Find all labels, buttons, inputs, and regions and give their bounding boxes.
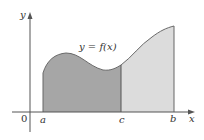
point-a-label: a: [40, 114, 46, 125]
point-b-label: b: [170, 113, 176, 124]
left-region: [43, 53, 121, 112]
right-region: [121, 26, 174, 112]
origin-label: 0: [21, 113, 27, 124]
y-axis-arrow-icon: [28, 12, 33, 19]
area-diagram: y x 0 a c b y = f(x): [0, 0, 204, 140]
curve-label: y = f(x): [78, 41, 117, 52]
point-c-label: c: [119, 114, 125, 125]
x-axis-label: x: [189, 113, 195, 124]
y-axis-label: y: [19, 9, 26, 20]
